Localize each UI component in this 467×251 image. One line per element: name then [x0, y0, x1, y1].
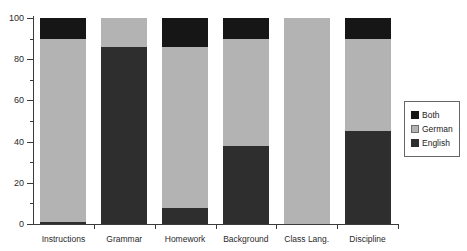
bar-slot-grammar [94, 18, 155, 224]
legend-item-german: German [411, 124, 459, 134]
bar-segment-instructions-german [40, 39, 86, 222]
bar-slot-instructions [33, 18, 94, 224]
bar-segment-homework-both [162, 18, 208, 47]
bar-segment-background-both [223, 18, 269, 39]
stacked-bar-background [223, 18, 269, 224]
stacked-bar-chart-figure: 020406080100 InstructionsGrammarHomework… [0, 0, 467, 251]
legend-item-both: Both [411, 110, 459, 120]
legend: Both German English [404, 101, 460, 157]
legend-item-english: English [411, 138, 459, 148]
bar-segment-grammar-english [101, 47, 147, 224]
x-boundary-tick-6 [398, 224, 399, 229]
bar-segment-discipline-german [345, 39, 391, 132]
stacked-bar-instructions [40, 18, 86, 224]
x-tick-label-instructions: Instructions [33, 234, 94, 244]
bar-segment-grammar-german [101, 18, 147, 47]
bar-segment-background-german [223, 39, 269, 146]
x-boundary-tick-4 [276, 224, 277, 229]
y-tick-label-60: 60 [0, 95, 24, 105]
bar-segment-discipline-both [345, 18, 391, 39]
y-tick-label-40: 40 [0, 137, 24, 147]
x-axis-labels: InstructionsGrammarHomeworkBackgroundCla… [33, 234, 398, 244]
bar-segment-instructions-english [40, 222, 86, 224]
stacked-bar-discipline [345, 18, 391, 224]
y-tick-label-80: 80 [0, 54, 24, 64]
bar-slot-homework [155, 18, 216, 224]
y-tick-label-20: 20 [0, 178, 24, 188]
bar-slot-background [215, 18, 276, 224]
bar-segment-background-english [223, 146, 269, 224]
x-boundary-tick-5 [337, 224, 338, 229]
y-tick-label-0: 0 [0, 219, 24, 229]
bar-segment-homework-english [162, 208, 208, 224]
y-tick-label-100: 100 [0, 13, 24, 23]
bar-segment-class-lang-german [284, 18, 330, 224]
x-boundary-tick-2 [155, 224, 156, 229]
stacked-bar-class-lang [284, 18, 330, 224]
legend-swatch-german [411, 125, 419, 133]
x-tick-label-discipline: Discipline [337, 234, 398, 244]
y-major-tick-0 [27, 224, 33, 225]
bar-segment-homework-german [162, 47, 208, 208]
x-tick-label-homework: Homework [155, 234, 216, 244]
legend-swatch-both [411, 111, 419, 119]
x-tick-label-background: Background [215, 234, 276, 244]
legend-label-english: English [422, 138, 450, 148]
legend-swatch-english [411, 139, 419, 147]
stacked-bar-grammar [101, 18, 147, 224]
stacked-bar-homework [162, 18, 208, 224]
plot-area [33, 18, 398, 224]
x-tick-label-grammar: Grammar [94, 234, 155, 244]
bar-slot-class-lang [276, 18, 337, 224]
x-tick-label-class-lang: Class Lang. [276, 234, 337, 244]
bar-slot-discipline [337, 18, 398, 224]
legend-label-both: Both [422, 110, 440, 120]
legend-label-german: German [422, 124, 453, 134]
bar-segment-discipline-english [345, 131, 391, 224]
x-boundary-tick-1 [94, 224, 95, 229]
x-boundary-tick-3 [216, 224, 217, 229]
bar-segment-instructions-both [40, 18, 86, 39]
